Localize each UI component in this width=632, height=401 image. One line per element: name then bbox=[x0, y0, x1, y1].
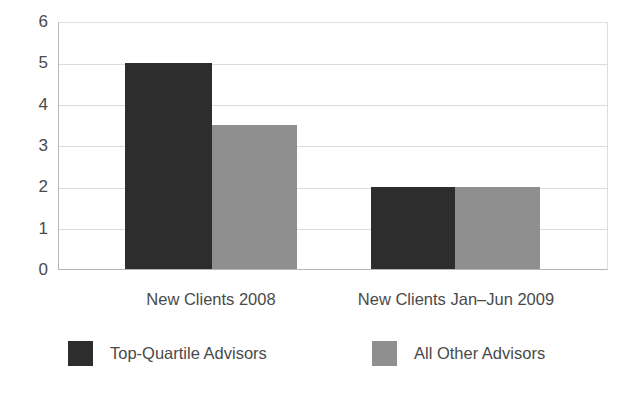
y-axis-tick-5: 5 bbox=[20, 54, 48, 71]
legend-swatch-dark-icon bbox=[68, 341, 93, 366]
y-axis-tick-1: 1 bbox=[20, 220, 48, 237]
bar-all-other-2009 bbox=[455, 187, 540, 269]
legend-item-all-other-advisors: All Other Advisors bbox=[372, 336, 545, 370]
y-axis-tick-3: 3 bbox=[20, 137, 48, 154]
plot-area bbox=[58, 22, 608, 270]
bar-top-quartile-2008 bbox=[125, 63, 212, 269]
y-axis-tick-4: 4 bbox=[20, 96, 48, 113]
legend-swatch-light-icon bbox=[372, 341, 397, 366]
legend-item-top-quartile-advisors: Top-Quartile Advisors bbox=[68, 336, 267, 370]
bar-top-quartile-2009 bbox=[371, 187, 455, 269]
y-axis-tick-0: 0 bbox=[20, 261, 48, 278]
y-axis-tick-2: 2 bbox=[20, 178, 48, 195]
bar-all-other-2008 bbox=[212, 125, 297, 269]
x-axis-label-new-clients-2008: New Clients 2008 bbox=[108, 288, 314, 310]
x-axis-label-new-clients-jan-jun-2009: New Clients Jan–Jun 2009 bbox=[330, 288, 582, 310]
legend: Top-Quartile Advisors All Other Advisors bbox=[0, 336, 632, 372]
x-axis: New Clients 2008 New Clients Jan–Jun 200… bbox=[0, 288, 632, 314]
legend-label-top-quartile-advisors: Top-Quartile Advisors bbox=[110, 343, 267, 363]
y-axis-tick-6: 6 bbox=[20, 13, 48, 30]
bar-chart: 6 5 4 3 2 1 0 New Clients 2008 New Clien… bbox=[0, 0, 632, 401]
legend-label-all-other-advisors: All Other Advisors bbox=[414, 343, 545, 363]
